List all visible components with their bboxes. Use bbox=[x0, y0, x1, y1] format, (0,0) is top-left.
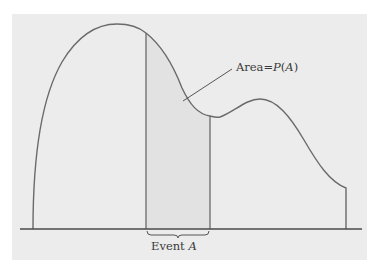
event-a-shaded-area bbox=[146, 33, 210, 229]
event-a-label: Event A bbox=[151, 241, 197, 253]
area-leader-line bbox=[183, 69, 232, 101]
event-brace bbox=[147, 231, 209, 238]
density-diagram bbox=[0, 0, 379, 269]
area-label: Area=P(A) bbox=[236, 62, 298, 74]
